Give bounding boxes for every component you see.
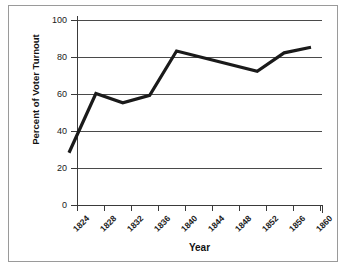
- x-tick-1836: [158, 205, 159, 211]
- gridline-20: [77, 168, 322, 169]
- x-axis-title: Year: [77, 242, 322, 253]
- x-tick-1844: [212, 205, 213, 211]
- y-tick-20: [71, 168, 77, 169]
- chart-frame: 100 80 60 40 20 0 1824 1828 1832 1836 18…: [8, 5, 338, 262]
- x-tick-1856: [293, 205, 294, 211]
- y-tick-label-20: 20: [25, 164, 67, 173]
- x-tick-1832: [131, 205, 132, 211]
- x-tick-1824: [77, 205, 78, 211]
- gridline-80: [77, 57, 322, 58]
- y-tick-label-0: 0: [25, 201, 67, 210]
- y-tick-100: [71, 20, 77, 21]
- x-tick-1852: [266, 205, 267, 211]
- plot-area: [77, 20, 322, 205]
- x-axis-line: [77, 205, 322, 206]
- x-tick-1860: [320, 205, 321, 211]
- y-tick-80: [71, 57, 77, 58]
- y-axis-title: Percent of Voter Turnout: [30, 20, 41, 160]
- gridline-40: [77, 131, 322, 132]
- y-tick-60: [71, 94, 77, 95]
- gridline-60: [77, 94, 322, 95]
- x-tick-1840: [185, 205, 186, 211]
- gridline-100: [77, 20, 322, 21]
- x-axis-right-cap: [322, 205, 323, 213]
- x-tick-1848: [239, 205, 240, 211]
- y-tick-40: [71, 131, 77, 132]
- chart-screenshot: 100 80 60 40 20 0 1824 1828 1832 1836 18…: [0, 0, 347, 276]
- y-axis-line: [77, 16, 78, 209]
- x-tick-1828: [104, 205, 105, 211]
